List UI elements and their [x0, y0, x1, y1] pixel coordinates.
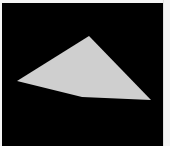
right-frame-strip	[163, 0, 170, 146]
gray-quadrilateral	[17, 36, 151, 100]
render-canvas	[2, 3, 163, 146]
shape-layer	[2, 3, 163, 146]
